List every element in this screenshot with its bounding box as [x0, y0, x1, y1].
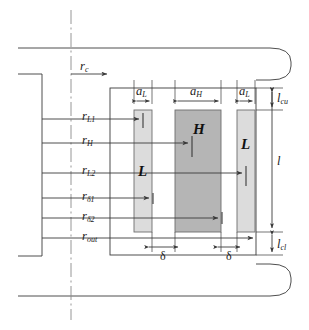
label-l-cu: lcu [277, 92, 288, 105]
label-r-out: rout [82, 230, 97, 243]
label-r-L1: rL1 [82, 110, 95, 123]
material-label-high: H [193, 122, 205, 137]
label-r-delta1: rδ1 [82, 190, 95, 203]
label-delta-left: δ [160, 250, 166, 262]
material-label-low-left: L [138, 164, 147, 179]
figure-canvas: rc rL1 rH rL2 rδ1 rδ2 rout aL aH aL lcu … [0, 0, 309, 330]
diagram-svg [0, 0, 309, 330]
shaft-bracket [18, 74, 42, 256]
label-a-H: aH [190, 85, 202, 98]
outer-housing-top [18, 48, 291, 80]
label-r-c: rc [80, 60, 88, 73]
label-l-total: l [277, 155, 280, 168]
outer-housing-bottom [18, 264, 291, 296]
label-a-L-right: aL [239, 85, 250, 98]
label-r-H: rH [82, 134, 93, 147]
material-label-low-right: L [241, 137, 250, 152]
label-delta-right: δ [226, 250, 232, 262]
label-a-L-left: aL [136, 85, 147, 98]
label-l-cl: lcl [277, 238, 286, 251]
label-r-L2: rL2 [82, 164, 95, 177]
label-r-delta2: rδ2 [82, 210, 95, 223]
